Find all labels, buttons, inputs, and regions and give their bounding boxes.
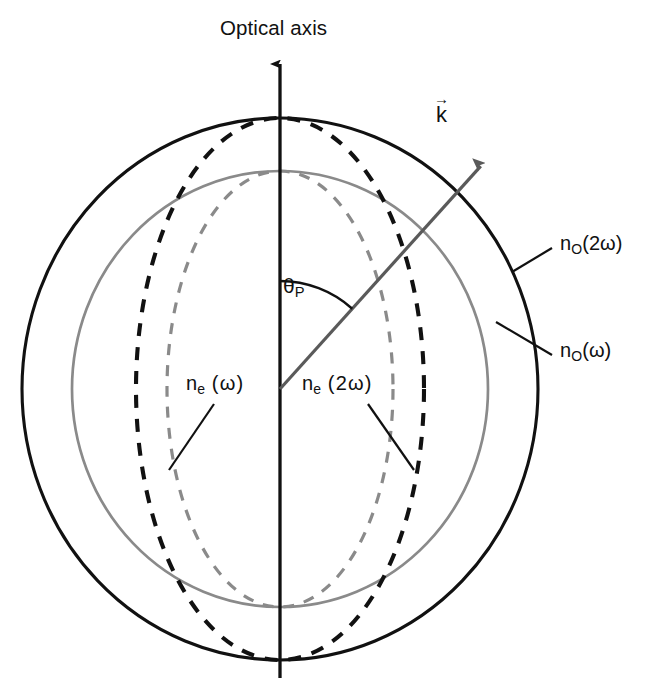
ne-2w-suffix: (2ω)	[321, 372, 373, 394]
ne-w-prefix: n	[186, 372, 197, 394]
leader-no-w	[496, 322, 552, 355]
no-2w-label: nO(2ω)	[560, 233, 623, 256]
no-2w-prefix: n	[560, 232, 571, 254]
k-vector-arrow-accent: →	[434, 91, 449, 106]
no-w-label: nO(ω)	[560, 340, 611, 363]
leader-no-2w	[512, 248, 552, 272]
k-vector-label: → k	[436, 104, 447, 126]
theta-p-label: θP	[283, 275, 304, 300]
ne-w-subscript: e	[197, 381, 205, 397]
optical-axis-title: Optical axis	[220, 18, 327, 39]
k-vector-stack: → k	[436, 104, 447, 126]
ne-2w-prefix: n	[302, 372, 313, 394]
ne-w-suffix: (ω)	[205, 372, 244, 394]
diagram-canvas	[0, 0, 649, 683]
ne-w-label: ne (ω)	[186, 373, 244, 396]
ne-2w-label: ne (2ω)	[302, 373, 373, 396]
no-w-subscript: O	[571, 348, 582, 364]
theta-symbol: θ	[283, 274, 295, 297]
no-2w-subscript: O	[571, 241, 582, 257]
theta-subscript: P	[295, 284, 305, 300]
figure-root: Optical axis → k θP nO(2ω) nO(ω) ne (ω) …	[0, 0, 649, 683]
no-w-suffix: (ω)	[582, 339, 611, 361]
no-w-prefix: n	[560, 339, 571, 361]
ne-2w-subscript: e	[313, 381, 321, 397]
leader-ne-w	[169, 404, 214, 470]
no-2w-suffix: (2ω)	[582, 232, 622, 254]
